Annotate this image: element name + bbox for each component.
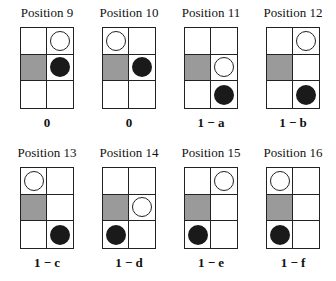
board-cell xyxy=(129,221,155,248)
board-cell xyxy=(129,168,155,195)
board-grid xyxy=(184,27,238,109)
position-title: Position 9 xyxy=(6,5,88,20)
board-cell xyxy=(293,221,319,248)
position-title: Position 15 xyxy=(170,145,252,160)
position-value: 0 xyxy=(88,115,170,130)
board-cell xyxy=(267,81,293,108)
board-cell xyxy=(47,195,73,222)
shaded-cell xyxy=(103,55,129,82)
board-cell xyxy=(47,221,73,248)
position-title: Position 11 xyxy=(170,5,252,20)
position-value: 1 − e xyxy=(170,255,252,270)
position-title: Position 16 xyxy=(252,145,334,160)
position-title: Position 12 xyxy=(252,5,334,20)
position-value: 0 xyxy=(6,115,88,130)
board-cell xyxy=(211,55,237,82)
white-piece-icon xyxy=(270,171,290,191)
shaded-cell xyxy=(21,55,47,82)
board-cell xyxy=(293,81,319,108)
board-cell xyxy=(267,221,293,248)
board-cell xyxy=(103,168,129,195)
board-cell xyxy=(185,221,211,248)
white-piece-icon xyxy=(132,197,152,217)
position-value: 1 − d xyxy=(88,255,170,270)
board-cell xyxy=(211,195,237,222)
shaded-cell xyxy=(185,195,211,222)
board-cell xyxy=(211,168,237,195)
board-cell xyxy=(47,55,73,82)
board-cell xyxy=(211,28,237,55)
black-piece-icon xyxy=(106,225,126,245)
board-cell xyxy=(293,168,319,195)
shaded-cell xyxy=(21,195,47,222)
shaded-cell xyxy=(185,55,211,82)
board-cell xyxy=(211,221,237,248)
black-piece-icon xyxy=(188,225,208,245)
board-cell xyxy=(21,221,47,248)
board-cell xyxy=(103,28,129,55)
board-cell xyxy=(211,81,237,108)
board-grid xyxy=(20,27,74,109)
board-cell xyxy=(267,168,293,195)
black-piece-icon xyxy=(270,225,290,245)
position-panel: Position 141 − d xyxy=(88,145,170,270)
board-grid xyxy=(266,167,320,249)
position-value: 1 − a xyxy=(170,115,252,130)
position-title: Position 14 xyxy=(88,145,170,160)
board-grid xyxy=(20,167,74,249)
position-panel: Position 131 − c xyxy=(6,145,88,270)
white-piece-icon xyxy=(24,171,44,191)
shaded-cell xyxy=(267,195,293,222)
board-cell xyxy=(129,81,155,108)
shaded-cell xyxy=(103,195,129,222)
white-piece-icon xyxy=(50,31,70,51)
position-panel: Position 121 − b xyxy=(252,5,334,130)
white-piece-icon xyxy=(296,31,316,51)
board-cell xyxy=(21,81,47,108)
black-piece-icon xyxy=(50,57,70,77)
board-grid xyxy=(102,167,156,249)
board-cell xyxy=(293,28,319,55)
board-cell xyxy=(21,28,47,55)
position-panel: Position 111 − a xyxy=(170,5,252,130)
black-piece-icon xyxy=(132,57,152,77)
white-piece-icon xyxy=(106,31,126,51)
white-piece-icon xyxy=(214,171,234,191)
board-cell xyxy=(185,81,211,108)
board-cell xyxy=(129,55,155,82)
position-value: 1 − f xyxy=(252,255,334,270)
board-cell xyxy=(293,55,319,82)
board-cell xyxy=(47,81,73,108)
black-piece-icon xyxy=(296,85,316,105)
black-piece-icon xyxy=(214,85,234,105)
position-panel: Position 161 − f xyxy=(252,145,334,270)
board-cell xyxy=(267,28,293,55)
position-panel: Position 90 xyxy=(6,5,88,130)
position-title: Position 13 xyxy=(6,145,88,160)
position-value: 1 − c xyxy=(6,255,88,270)
black-piece-icon xyxy=(50,225,70,245)
board-cell xyxy=(129,195,155,222)
board-grid xyxy=(184,167,238,249)
board-cell xyxy=(103,81,129,108)
board-cell xyxy=(47,28,73,55)
board-cell xyxy=(129,28,155,55)
board-grid xyxy=(266,27,320,109)
white-piece-icon xyxy=(214,57,234,77)
board-cell xyxy=(103,221,129,248)
board-cell xyxy=(293,195,319,222)
position-panel: Position 151 − e xyxy=(170,145,252,270)
board-cell xyxy=(185,168,211,195)
board-cell xyxy=(185,28,211,55)
position-value: 1 − b xyxy=(252,115,334,130)
board-grid xyxy=(102,27,156,109)
board-cell xyxy=(21,168,47,195)
shaded-cell xyxy=(267,55,293,82)
position-panel: Position 100 xyxy=(88,5,170,130)
board-cell xyxy=(47,168,73,195)
position-title: Position 10 xyxy=(88,5,170,20)
